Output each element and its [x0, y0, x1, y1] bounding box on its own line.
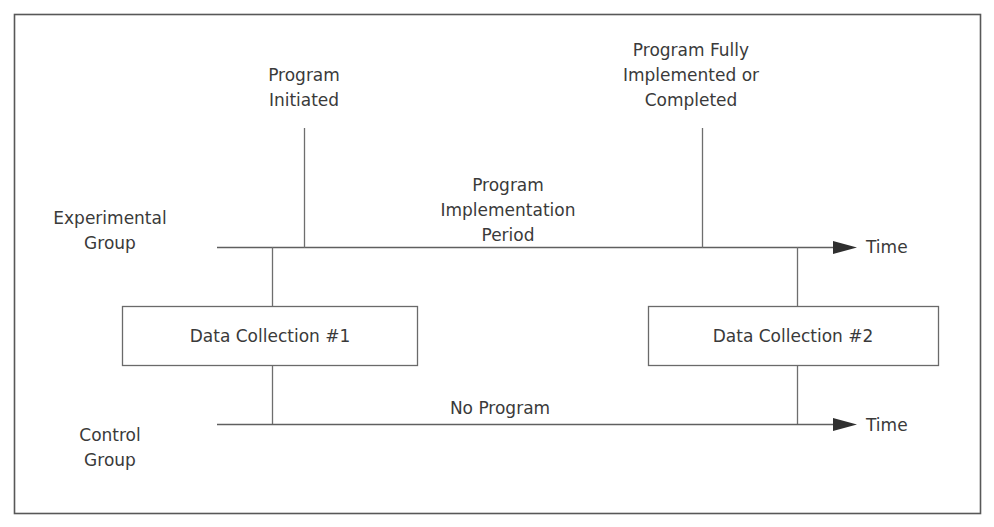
diagram-canvas: Time Program Initiated Program Fully Imp… [0, 0, 994, 527]
implementation-period-label-line3: Period [481, 225, 534, 245]
control-time-label: Time [865, 415, 908, 435]
program-initiated-label-line2: Initiated [269, 90, 339, 110]
control-group-label-line2: Group [84, 450, 136, 470]
program-initiated-label-line1: Program [268, 65, 340, 85]
timeline-diagram-svg: Time Program Initiated Program Fully Imp… [0, 0, 994, 527]
experimental-time-label: Time [865, 237, 908, 257]
diagram-frame [15, 15, 981, 514]
experimental-group-label-line1: Experimental [53, 208, 166, 228]
program-completed-label-line2: Implemented or [623, 65, 759, 85]
experimental-timeline-arrowhead [833, 241, 857, 254]
no-program-label: No Program [450, 398, 550, 418]
data-collection-2-label: Data Collection #2 [713, 326, 874, 346]
implementation-period-label-line2: Implementation [441, 200, 576, 220]
program-completed-label-line3: Completed [645, 90, 738, 110]
control-timeline-arrowhead [833, 418, 857, 431]
implementation-period-label-line1: Program [472, 175, 544, 195]
control-group-label-line1: Control [79, 425, 140, 445]
experimental-group-label-line2: Group [84, 233, 136, 253]
data-collection-1-label: Data Collection #1 [190, 326, 351, 346]
program-completed-label-line1: Program Fully [633, 40, 749, 60]
